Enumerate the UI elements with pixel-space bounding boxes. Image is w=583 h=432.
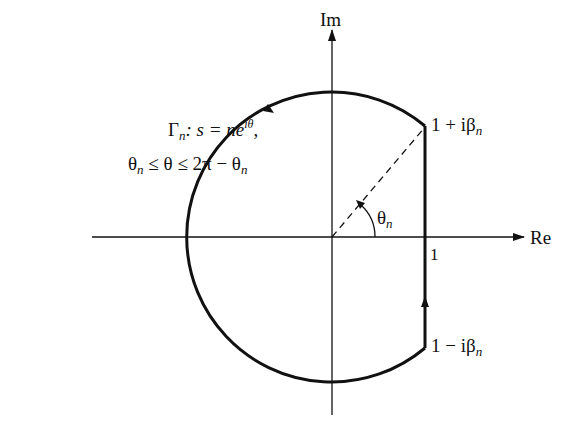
tick-one-label: 1 [430,246,439,263]
upper-point-sub: n [476,123,483,138]
angle-sub: n [386,216,393,231]
definition-comma: , [253,119,258,140]
range-sub-2: n [241,162,248,177]
lower-point-label: 1 − iβn [431,336,482,358]
contour-diagram [0,0,583,432]
range-theta: θ [128,153,137,174]
contour-range: θn ≤ θ ≤ 2π − θn [128,154,247,176]
angle-label: θn [377,208,393,230]
segment-direction-arrow [421,296,429,307]
angle-theta: θ [377,207,386,228]
upper-point-label: 1 + iβn [431,115,482,137]
definition-text: : s = ne [185,119,244,140]
re-axis-label: Re [530,228,551,247]
contour-definition: Γn: s = neiθ, [168,118,258,142]
upper-point-text: 1 + iβ [431,114,476,135]
im-axis-label: Im [320,10,341,29]
lower-point-sub: n [476,344,483,359]
angle-arc [361,205,375,237]
gamma-symbol: Γ [168,119,179,140]
lower-point-text: 1 − iβ [431,335,476,356]
range-inequality: ≤ θ ≤ 2π − θ [144,153,241,174]
